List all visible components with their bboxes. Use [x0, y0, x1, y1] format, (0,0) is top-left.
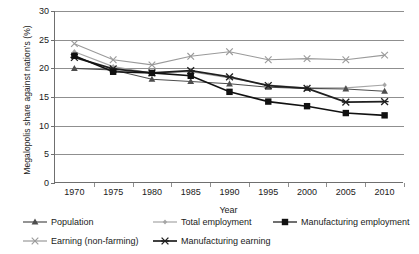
legend-marker-asterisk-icon	[152, 235, 178, 247]
plot-area: 051015202530 197019751980198519901995200…	[54, 11, 403, 183]
y-tick-label: 15	[29, 97, 49, 98]
legend-item-population[interactable]: Population	[22, 213, 94, 231]
legend-row: Earning (non-farming)Manufacturing earni…	[0, 232, 419, 250]
x-tick-label: 2010	[365, 187, 405, 197]
data-point-filled-square	[265, 98, 271, 104]
legend-item-manufacturing-earning[interactable]: Manufacturing earning	[152, 232, 271, 250]
chart-figure: Megalopolis share against nation's (%) 0…	[0, 0, 419, 254]
legend-label: Manufacturing employment	[301, 216, 410, 228]
legend-marker-triangle-icon	[22, 216, 48, 228]
y-tick-label: 25	[29, 40, 49, 41]
legend-row: PopulationTotal employmentManufacturing …	[0, 213, 419, 231]
y-tick-label: 30	[29, 11, 49, 12]
chart-legend: PopulationTotal employmentManufacturing …	[0, 213, 419, 254]
x-tick-label: 1970	[54, 187, 94, 197]
series-layer	[55, 11, 404, 183]
y-tick-mark	[51, 183, 55, 184]
legend-marker-small-diamond-icon	[152, 216, 178, 228]
x-tick-label: 1980	[132, 187, 172, 197]
legend-label: Total employment	[181, 216, 252, 228]
data-point-filled-square	[282, 219, 288, 225]
data-point-asterisk	[381, 98, 389, 105]
legend-item-manufacturing-employment[interactable]: Manufacturing employment	[272, 213, 410, 231]
legend-item-earning-non-farming[interactable]: Earning (non-farming)	[22, 232, 139, 250]
data-point-filled-square	[226, 89, 232, 95]
data-point-small-diamond	[382, 82, 386, 87]
y-tick-label: 5	[29, 154, 49, 155]
x-tick-label: 1990	[210, 187, 250, 197]
x-tick-label: 1985	[171, 187, 211, 197]
x-tick-label: 2000	[287, 187, 327, 197]
data-point-filled-square	[304, 103, 310, 109]
y-tick-label: 0	[29, 183, 49, 184]
legend-marker-filled-square-icon	[272, 216, 298, 228]
legend-label: Manufacturing earning	[181, 235, 271, 247]
data-point-cross-x	[71, 40, 78, 47]
legend-marker-cross-x-icon	[22, 235, 48, 247]
data-point-filled-square	[381, 112, 387, 118]
legend-label: Earning (non-farming)	[51, 235, 139, 247]
series-earning-non-farming	[71, 40, 388, 68]
data-point-filled-square	[343, 110, 349, 116]
x-tick-label: 2005	[326, 187, 366, 197]
legend-item-total-employment[interactable]: Total employment	[152, 213, 252, 231]
data-point-filled-square	[149, 70, 155, 76]
data-point-asterisk	[161, 238, 169, 245]
y-tick-label: 20	[29, 68, 49, 69]
data-point-filled-square	[188, 73, 194, 79]
x-tick-label: 1975	[93, 187, 133, 197]
series-line	[74, 44, 384, 65]
data-point-asterisk	[342, 99, 350, 106]
data-point-small-diamond	[163, 219, 167, 224]
data-point-filled-square	[71, 53, 77, 59]
data-point-filled-square	[110, 69, 116, 75]
x-tick-label: 1995	[248, 187, 288, 197]
legend-label: Population	[51, 216, 94, 228]
y-tick-label: 10	[29, 126, 49, 127]
